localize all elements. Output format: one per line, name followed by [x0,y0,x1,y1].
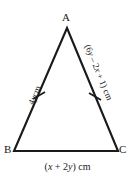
vertex-label-c: C [119,144,126,155]
side-length-label-bc: (x + 2y) cm [0,161,135,172]
vertex-label-a: A [62,12,70,23]
geometry-figure-container: A B C 4ycm (6y – 2x + 1) cm (x + 2y) cm [0,0,135,180]
triangle-diagram-svg [0,0,135,180]
vertex-label-b: B [4,144,11,155]
bc-close: ) cm [72,161,90,172]
bc-mid: + 2 [52,161,68,172]
